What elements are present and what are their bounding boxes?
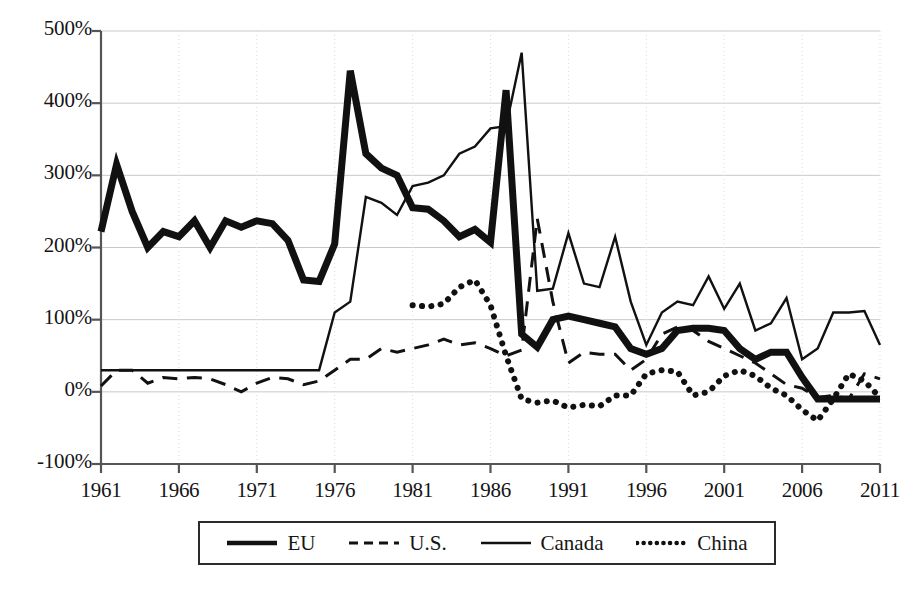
legend-label: EU <box>287 531 315 556</box>
x-axis-label-2011: 2011 <box>860 478 900 503</box>
legend-item-us[interactable]: U.S. <box>348 531 446 556</box>
legend-label: Canada <box>541 531 604 556</box>
legend-swatch-dotted <box>636 536 688 550</box>
x-axis-label-1971: 1971 <box>236 478 277 503</box>
legend-swatch-solid-thick <box>226 536 278 550</box>
chart-container: 500%400%300%200%100%0%-100% 196119661971… <box>0 0 917 597</box>
legend-label: China <box>697 531 747 556</box>
x-axis-label-1991: 1991 <box>548 478 589 503</box>
x-axis-label-1996: 1996 <box>626 478 667 503</box>
x-axis-label-1981: 1981 <box>392 478 433 503</box>
x-axis-label-1976: 1976 <box>314 478 355 503</box>
grid-layer <box>101 31 880 464</box>
y-axis-label-500: 500% <box>6 16 92 41</box>
legend-item-eu[interactable]: EU <box>226 531 315 556</box>
chart-legend: EUU.S.CanadaChina <box>198 521 776 565</box>
legend-swatch-dashed <box>348 536 400 550</box>
x-axis-label-1961: 1961 <box>81 478 122 503</box>
y-axis-label-400: 400% <box>6 88 92 113</box>
y-axis-label--100: -100% <box>6 449 92 474</box>
y-axis-label-200: 200% <box>6 233 92 258</box>
x-axis-label-1966: 1966 <box>158 478 199 503</box>
y-axis-label-100: 100% <box>6 305 92 330</box>
y-axis-tick-labels: 500%400%300%200%100%0%-100% <box>0 0 92 597</box>
x-axis-label-2006: 2006 <box>782 478 823 503</box>
x-axis-label-2001: 2001 <box>704 478 745 503</box>
legend-swatch-solid-thin <box>480 536 532 550</box>
x-axis-label-1986: 1986 <box>470 478 511 503</box>
legend-item-canada[interactable]: Canada <box>480 531 604 556</box>
legend-label: U.S. <box>409 531 446 556</box>
y-axis-label-0: 0% <box>6 377 92 402</box>
legend-item-china[interactable]: China <box>636 531 747 556</box>
y-axis-label-300: 300% <box>6 160 92 185</box>
line-chart-plot <box>0 0 917 597</box>
